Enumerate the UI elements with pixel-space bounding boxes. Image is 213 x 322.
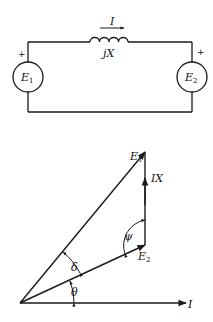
e1-polarity: + (18, 49, 26, 59)
figure: I jX + + E1 E2 E1 IX E2 I ψ δ θ (0, 0, 213, 322)
phasor-e1 (20, 152, 145, 303)
angle-psi-label: ψ (124, 230, 133, 243)
current-label: I (109, 15, 115, 28)
reactance-label: jX (100, 47, 115, 60)
circuit-diagram (13, 28, 207, 112)
phasor-ix-label: IX (150, 172, 164, 185)
phasor-i-label: I (187, 298, 193, 311)
angle-theta-label: θ (71, 286, 78, 299)
phasor-e2-label: E2 (137, 250, 151, 264)
e1-label: E1 (20, 71, 34, 85)
angle-delta-label: δ (71, 261, 78, 274)
e2-polarity: + (197, 47, 205, 57)
e2-label: E2 (184, 71, 198, 85)
phasor-e1-label: E1 (129, 150, 143, 164)
phasor-e2 (20, 245, 145, 303)
inductor-coil (90, 38, 128, 43)
